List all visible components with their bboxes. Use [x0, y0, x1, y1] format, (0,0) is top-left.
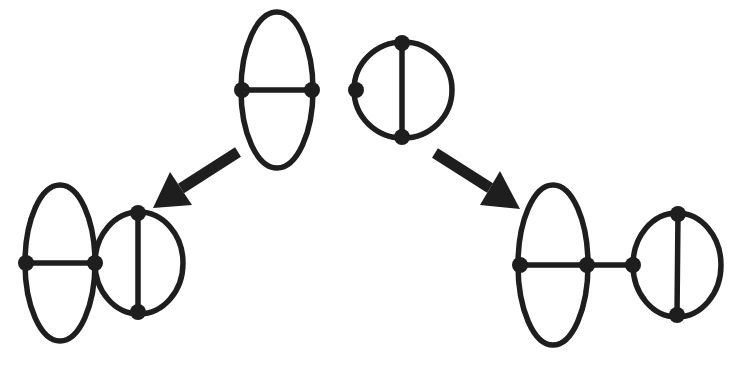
arrow-shaft [435, 153, 490, 188]
vertex-node [234, 82, 250, 98]
vertex-node [130, 304, 146, 320]
vertex-node [670, 206, 686, 222]
vertex-node [394, 35, 410, 51]
graph-diagram [0, 0, 737, 369]
vertex-node [130, 205, 146, 221]
vertex-node [304, 82, 320, 98]
vertex-node [669, 307, 685, 323]
graph-bottom-right-bridged [512, 185, 721, 345]
arrow-left-icon [153, 152, 238, 208]
chord-edge [677, 213, 678, 316]
vertex-node [87, 255, 103, 271]
vertex-node [394, 129, 410, 145]
arrow-right-icon [435, 153, 520, 209]
vertex-node [348, 82, 364, 98]
vertex-node [579, 257, 595, 273]
vertex-node [18, 255, 34, 271]
graph-top-theta [234, 12, 320, 168]
vertex-node [625, 257, 641, 273]
graph-top-tadpole-circle [348, 35, 452, 145]
graph-bottom-left-joined [18, 185, 183, 341]
arrow-shaft [181, 152, 238, 189]
vertex-node [512, 257, 528, 273]
